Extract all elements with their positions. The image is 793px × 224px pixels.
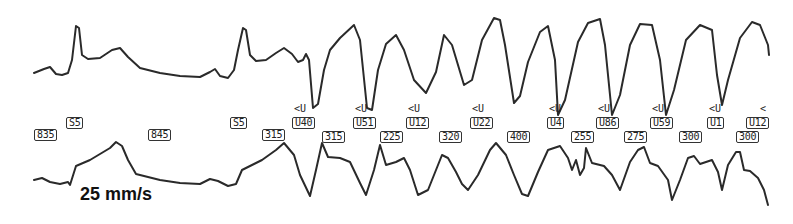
u-marker: <: [760, 104, 766, 114]
beat-label: U12: [406, 117, 429, 129]
u-marker: <U: [598, 104, 610, 114]
beat-label: U1: [707, 117, 724, 129]
u-marker: <U: [408, 104, 420, 114]
beat-label: 300: [679, 131, 702, 143]
paper-speed-label: 25 mm/s: [80, 184, 152, 205]
u-marker: <U: [294, 104, 306, 114]
u-marker: <U: [652, 104, 664, 114]
beat-label: U12: [746, 117, 769, 129]
u-marker: <U: [709, 104, 721, 114]
beat-label: S5: [230, 117, 247, 129]
beat-label: 320: [439, 131, 462, 143]
beat-label: U4: [547, 117, 564, 129]
beat-label: U51: [353, 117, 376, 129]
beat-label: 225: [380, 131, 403, 143]
beat-label: U86: [596, 117, 619, 129]
beat-label: 315: [322, 131, 345, 143]
u-marker: <U: [472, 104, 484, 114]
beat-label: 400: [507, 131, 530, 143]
beat-label: 315: [262, 129, 285, 141]
beat-label: 275: [624, 131, 647, 143]
beat-label: S5: [66, 117, 83, 129]
beat-label: U59: [650, 117, 673, 129]
beat-label: U40: [292, 117, 315, 129]
beat-label: U22: [470, 117, 493, 129]
u-marker: <U: [355, 104, 367, 114]
beat-label: 845: [148, 129, 171, 141]
beat-label: 835: [34, 129, 57, 141]
beat-label: 300: [736, 131, 759, 143]
ecg-trace-upper: [34, 18, 769, 115]
u-marker: <U: [549, 104, 561, 114]
beat-label: 255: [571, 131, 594, 143]
